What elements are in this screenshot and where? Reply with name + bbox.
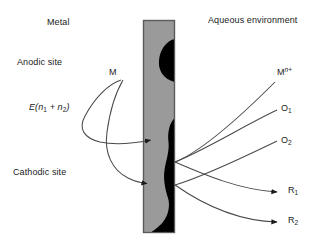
- flow-m-to-cathodic-site: [106, 80, 147, 184]
- metal-ion-charge-sign: +: [288, 66, 292, 73]
- metal-atom-label: M: [109, 68, 117, 78]
- cathodic-site-label: Cathodic site: [13, 168, 66, 178]
- anodic-site-label: Anodic site: [17, 58, 62, 68]
- flow-anodic-to-metal-ion: [175, 82, 275, 162]
- corrosion-diagram: Metal Aqueous environment Anodic site Ca…: [0, 0, 324, 251]
- energy-close-paren: ): [66, 102, 69, 112]
- oxidant-1-subscript: 1: [288, 107, 292, 114]
- reduction-product-flows: [175, 162, 277, 222]
- oxidant-2-subscript: 2: [288, 139, 292, 146]
- flow-o2-to-cathodic-site: [175, 141, 277, 185]
- metal-specimen: [144, 21, 175, 233]
- energy-plus: +: [47, 102, 58, 112]
- reductant-2-label: R2: [288, 216, 298, 226]
- oxidant-1-label: O1: [281, 104, 292, 114]
- reductant-1-label: R1: [288, 186, 298, 196]
- metal-region-label: Metal: [47, 18, 70, 28]
- metal-dissolution-flows: [82, 80, 150, 184]
- energy-label: E(n1 + n2): [29, 103, 70, 113]
- ion-release-flows: [175, 82, 277, 185]
- metal-ion-symbol: M: [277, 67, 285, 77]
- flow-m-to-anodic-site: [82, 80, 150, 144]
- metal-ion-label: Mn+: [277, 66, 292, 78]
- diagram-canvas: [0, 0, 324, 251]
- reductant-1-subscript: 1: [295, 189, 299, 196]
- oxidant-2-label: O2: [281, 136, 292, 146]
- reductant-2-symbol: R: [288, 215, 295, 225]
- reductant-2-subscript: 2: [295, 219, 299, 226]
- flow-cathodic-to-r1: [175, 162, 277, 192]
- aqueous-region-label: Aqueous environment: [208, 16, 297, 26]
- reductant-1-symbol: R: [288, 185, 295, 195]
